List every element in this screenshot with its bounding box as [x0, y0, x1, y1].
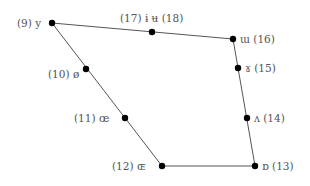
label-14: ʌ (14)	[254, 112, 285, 124]
point-12	[159, 163, 165, 169]
label-15: ɤ (15)	[245, 62, 276, 74]
point-10	[83, 66, 89, 72]
label-17-18: (17) ɨ ʉ (18)	[120, 12, 183, 24]
label-12: (12) ɶ	[112, 160, 145, 172]
point-11	[122, 115, 128, 121]
label-13: ɒ (13)	[262, 160, 294, 172]
label-9: (9) y	[17, 17, 41, 29]
point-17-18	[149, 29, 155, 35]
label-11: (11) œ	[74, 112, 109, 124]
vowel-chart	[0, 0, 310, 186]
label-10: (10) ø	[48, 68, 79, 80]
point-9	[49, 20, 55, 26]
point-13	[252, 163, 258, 169]
point-14	[244, 115, 250, 121]
label-16: ɯ (16)	[240, 33, 275, 45]
point-15	[235, 65, 241, 71]
quadrilateral-outline	[52, 23, 255, 166]
point-16	[230, 36, 236, 42]
